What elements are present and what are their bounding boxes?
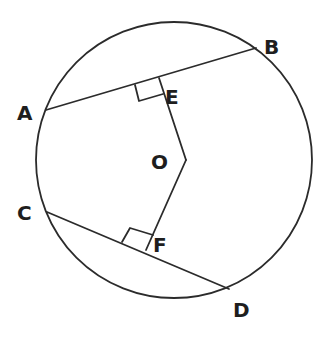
label-F: F bbox=[153, 233, 167, 257]
right-angle-mark-E bbox=[135, 85, 163, 101]
circle-chords-diagram: A B C D E F O bbox=[0, 0, 324, 337]
label-A: A bbox=[17, 101, 33, 125]
circle bbox=[36, 22, 312, 298]
label-C: C bbox=[17, 201, 32, 225]
label-O: O bbox=[151, 150, 168, 174]
chord-AB bbox=[46, 48, 256, 110]
label-B: B bbox=[264, 35, 279, 59]
label-E: E bbox=[165, 85, 179, 109]
chord-CD bbox=[47, 212, 229, 289]
label-D: D bbox=[233, 298, 250, 322]
right-angle-mark-F bbox=[122, 228, 153, 242]
